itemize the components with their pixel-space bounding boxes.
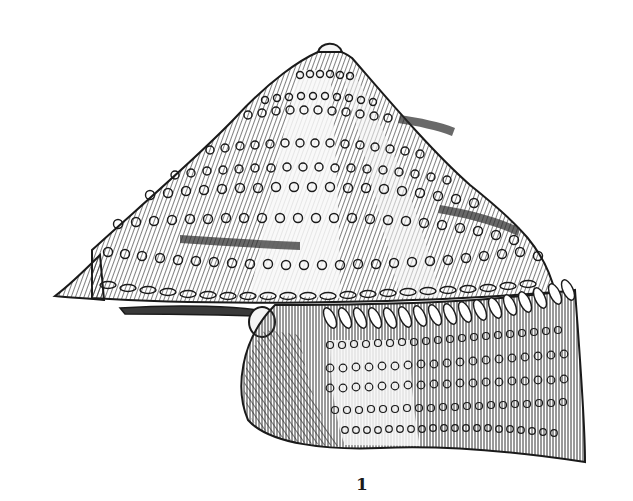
helmet-engraving xyxy=(0,0,633,501)
neck-curtain xyxy=(241,290,585,462)
helmet-dome xyxy=(92,44,555,303)
figure-caption: 1 xyxy=(356,474,368,494)
